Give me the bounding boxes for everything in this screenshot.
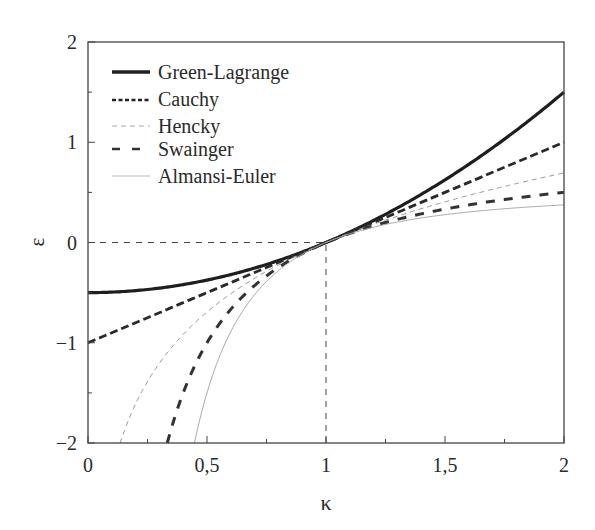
curve-almansi-euler xyxy=(194,205,564,443)
legend: Green-Lagrange Cauchy Hencky Swainger Al… xyxy=(112,61,289,187)
legend-item-cauchy: Cauchy xyxy=(112,88,219,111)
legend-label: Almansi-Euler xyxy=(158,165,276,187)
legend-label: Green-Lagrange xyxy=(158,61,289,84)
curve-swainger xyxy=(167,192,564,443)
y-tick-label: −2 xyxy=(56,432,77,454)
y-tick-label: 1 xyxy=(67,131,77,153)
legend-label: Hencky xyxy=(158,115,220,138)
legend-label: Cauchy xyxy=(158,88,219,111)
x-tick-label: 1,5 xyxy=(433,454,458,476)
x-tick-label: 0,5 xyxy=(195,454,220,476)
y-tick-label: 0 xyxy=(67,232,77,254)
y-axis-label: ε xyxy=(25,237,49,246)
legend-item-almansi-euler: Almansi-Euler xyxy=(112,165,276,187)
x-tick-label: 2 xyxy=(559,454,569,476)
legend-item-green-lagrange: Green-Lagrange xyxy=(112,61,289,84)
x-axis-label: κ xyxy=(320,490,331,515)
y-tick-label: 2 xyxy=(67,31,77,53)
strain-measures-chart: 00,511,52210−1−2 κ ε Green-Lagrange Cauc… xyxy=(0,0,595,530)
plot-canvas: 00,511,52210−1−2 κ ε Green-Lagrange Cauc… xyxy=(0,0,595,530)
curve-hencky xyxy=(120,173,564,443)
legend-label: Swainger xyxy=(158,138,234,161)
legend-item-hencky: Hencky xyxy=(112,115,220,138)
x-tick-label: 0 xyxy=(83,454,93,476)
x-tick-label: 1 xyxy=(321,454,331,476)
y-tick-label: −1 xyxy=(56,332,77,354)
legend-item-swainger: Swainger xyxy=(112,138,234,161)
